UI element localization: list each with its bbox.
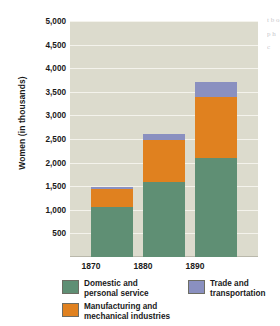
y-tick-4000: 4,000 — [22, 64, 66, 73]
x-tick-1890: 1890 — [165, 261, 225, 271]
bar-segment-man-1890[interactable] — [195, 97, 237, 158]
bar-1870[interactable] — [91, 187, 133, 257]
y-tick-1500: 1,500 — [22, 182, 66, 191]
bar-1880[interactable] — [143, 134, 185, 257]
x-tick-1880: 1880 — [113, 261, 173, 271]
legend-swatch-trade-icon — [188, 280, 205, 294]
gridline-5000 — [70, 21, 258, 22]
page-margin-text-fragment: t b o p h c — [267, 14, 280, 110]
y-tick-3000: 3,000 — [22, 111, 66, 120]
y-tick-500: 500 — [22, 229, 66, 238]
legend-label-domestic: Domestic and personal service — [84, 279, 149, 298]
y-tick-1000: 1,000 — [22, 205, 66, 214]
stacked-bar-chart-figure: Women (in thousands) 5,000 4,500 4,000 3… — [0, 0, 280, 326]
x-tick-1870: 1870 — [61, 261, 121, 271]
y-tick-4500: 4,500 — [22, 40, 66, 49]
bar-segment-tra-1890[interactable] — [195, 82, 237, 96]
legend-item-domestic[interactable]: Domestic and personal service — [62, 279, 149, 298]
bar-segment-man-1870[interactable] — [91, 189, 133, 208]
chart-legend: Domestic and personal service Manufactur… — [62, 279, 280, 325]
plot-area — [70, 21, 258, 257]
bar-segment-dom-1880[interactable] — [143, 182, 185, 257]
legend-label-manufacturing: Manufacturing and mechanical industries — [84, 302, 170, 321]
y-tick-2500: 2,500 — [22, 135, 66, 144]
y-tick-3500: 3,500 — [22, 87, 66, 96]
y-tick-2000: 2,000 — [22, 158, 66, 167]
legend-swatch-domestic-icon — [62, 280, 79, 294]
legend-label-trade: Trade and transportation — [210, 279, 266, 298]
legend-item-trade[interactable]: Trade and transportation — [188, 279, 266, 298]
bar-segment-man-1880[interactable] — [143, 140, 185, 182]
y-tick-5000: 5,000 — [22, 17, 66, 26]
bar-1890[interactable] — [195, 82, 237, 257]
gridline-4000 — [70, 68, 258, 69]
legend-item-manufacturing[interactable]: Manufacturing and mechanical industries — [62, 302, 170, 321]
legend-swatch-manufacturing-icon — [62, 303, 79, 317]
bar-segment-dom-1890[interactable] — [195, 158, 237, 257]
bar-segment-dom-1870[interactable] — [91, 207, 133, 257]
gridline-4500 — [70, 45, 258, 46]
